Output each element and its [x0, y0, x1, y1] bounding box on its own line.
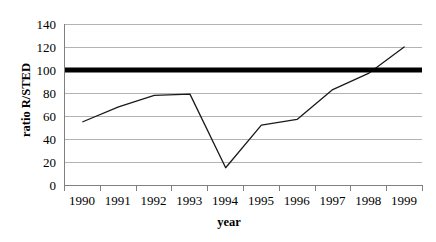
x-tick-label: 1999 [391, 193, 417, 209]
y-tick-label: 40 [43, 133, 56, 146]
x-tick-label: 1992 [141, 193, 167, 209]
y-axis-title-container: ratio R/STED [2, 10, 22, 190]
y-tick-label: 0 [50, 179, 57, 192]
x-tick-label: 1997 [320, 193, 346, 209]
x-axis-title-container: year [0, 215, 436, 230]
x-tick-label: 1993 [176, 193, 202, 209]
x-tick-mark [386, 185, 387, 191]
x-tick-label: 1998 [355, 193, 381, 209]
y-tick-label: 100 [37, 64, 57, 77]
y-tick-label: 120 [37, 41, 57, 54]
x-axis-title: year [217, 215, 241, 230]
line-chart: ratio R/STED 020406080100120140 19901991… [0, 0, 436, 242]
x-tick-label: 1995 [248, 193, 274, 209]
reference-line-100 [65, 68, 422, 73]
x-tick-mark [350, 185, 351, 191]
data-series-line [65, 24, 422, 185]
x-tick-label: 1991 [105, 193, 131, 209]
y-tick-label: 140 [37, 18, 57, 31]
x-tick-mark [279, 185, 280, 191]
x-tick-label: 1996 [284, 193, 310, 209]
x-tick-mark [207, 185, 208, 191]
y-tick-label: 20 [43, 156, 56, 169]
x-tick-mark [422, 185, 423, 191]
x-tick-label: 1994 [212, 193, 238, 209]
y-tick-label: 80 [43, 87, 56, 100]
y-tick-label: 60 [43, 110, 56, 123]
x-tick-mark [315, 185, 316, 191]
x-tick-mark [171, 185, 172, 191]
x-tick-mark [100, 185, 101, 191]
plot-area [64, 24, 422, 185]
x-tick-label: 1990 [69, 193, 95, 209]
x-tick-mark [243, 185, 244, 191]
y-axis-tick-labels: 020406080100120140 [22, 14, 60, 194]
x-tick-mark [64, 185, 65, 191]
x-tick-mark [136, 185, 137, 191]
